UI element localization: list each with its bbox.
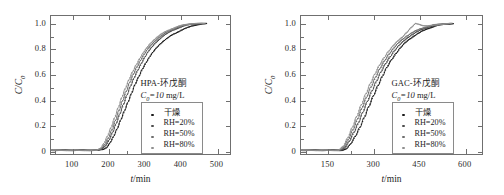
- data-point: [141, 70, 142, 71]
- data-point: [387, 52, 388, 53]
- data-point: [391, 51, 392, 52]
- data-point: [385, 69, 386, 70]
- data-point: [448, 23, 449, 24]
- data-point: [113, 122, 114, 123]
- data-point: [171, 29, 172, 30]
- y-tick: [51, 37, 54, 38]
- x-tick-label: 400: [174, 159, 187, 169]
- data-point: [124, 100, 125, 101]
- data-point: [104, 144, 105, 145]
- legend-marker-icon: [397, 135, 411, 153]
- data-point: [169, 36, 170, 37]
- data-point: [115, 132, 116, 133]
- data-point: [92, 149, 93, 150]
- data-point: [426, 27, 427, 28]
- data-point: [198, 23, 199, 24]
- data-point: [374, 79, 375, 80]
- legend-item[interactable]: RH=80%: [146, 139, 195, 150]
- data-point: [115, 115, 116, 116]
- data-point: [348, 137, 349, 138]
- data-point: [157, 39, 158, 40]
- data-point: [381, 70, 382, 71]
- data-point: [372, 79, 373, 80]
- data-point: [438, 24, 439, 25]
- data-point: [196, 25, 197, 26]
- y-tick-label: 0.2: [23, 120, 46, 130]
- data-point: [148, 50, 149, 51]
- data-point: [97, 149, 98, 150]
- data-point: [114, 128, 115, 129]
- data-point: [145, 64, 146, 65]
- x-tick: [127, 151, 128, 154]
- data-point: [134, 68, 135, 69]
- data-point: [408, 35, 409, 36]
- data-point: [378, 67, 379, 68]
- data-point: [368, 98, 369, 99]
- data-point: [425, 25, 426, 26]
- data-point: [372, 90, 373, 91]
- data-point: [351, 136, 352, 137]
- chart-panel-hpa: 10020030040050000.20.40.60.81.0t/minC/C0…: [0, 0, 252, 195]
- data-point: [116, 112, 117, 113]
- data-point: [130, 75, 131, 76]
- data-point: [103, 146, 104, 147]
- data-point: [154, 41, 155, 42]
- data-point: [411, 34, 412, 35]
- data-point: [367, 90, 368, 91]
- data-point: [385, 59, 386, 60]
- data-point: [370, 101, 371, 102]
- data-point: [159, 35, 160, 36]
- data-point: [126, 106, 127, 107]
- legend-item[interactable]: RH=80%: [397, 139, 446, 150]
- data-point: [361, 115, 362, 116]
- y-tick: [226, 75, 230, 76]
- data-point: [404, 37, 405, 38]
- data-point: [147, 60, 148, 61]
- data-point: [135, 74, 136, 75]
- data-point: [161, 35, 162, 36]
- data-point: [420, 24, 421, 25]
- data-point: [399, 41, 400, 42]
- data-point: [361, 124, 362, 125]
- data-point: [111, 129, 112, 130]
- data-point: [148, 47, 149, 48]
- x-tick-label: 300: [137, 159, 150, 169]
- data-point: [192, 23, 193, 24]
- data-point: [356, 127, 357, 128]
- data-point: [434, 26, 435, 27]
- data-point: [179, 27, 180, 28]
- y-tick: [301, 24, 306, 25]
- y-tick: [51, 101, 56, 102]
- data-point: [110, 132, 111, 133]
- data-point: [366, 112, 367, 113]
- data-point: [138, 61, 139, 62]
- data-point: [310, 150, 311, 151]
- data-point: [392, 49, 393, 50]
- data-point: [380, 67, 381, 68]
- data-point: [332, 150, 333, 151]
- data-point: [421, 28, 422, 29]
- data-point: [155, 42, 156, 43]
- data-point: [172, 34, 173, 35]
- data-point: [373, 77, 374, 78]
- data-point: [418, 24, 419, 25]
- data-point: [367, 109, 368, 110]
- data-point: [153, 40, 154, 41]
- data-point: [138, 64, 139, 65]
- data-point: [346, 139, 347, 140]
- data-point: [358, 129, 359, 130]
- data-point: [369, 95, 370, 96]
- y-tick: [478, 101, 482, 102]
- data-point: [407, 31, 408, 32]
- data-point: [134, 71, 135, 72]
- data-point: [405, 39, 406, 40]
- data-point: [147, 48, 148, 49]
- data-point: [358, 121, 359, 122]
- data-point: [122, 100, 123, 101]
- data-point: [189, 24, 190, 25]
- data-point: [121, 98, 122, 99]
- data-point: [416, 31, 417, 32]
- y-tick: [51, 75, 56, 76]
- data-point: [413, 31, 414, 32]
- data-point: [135, 69, 136, 70]
